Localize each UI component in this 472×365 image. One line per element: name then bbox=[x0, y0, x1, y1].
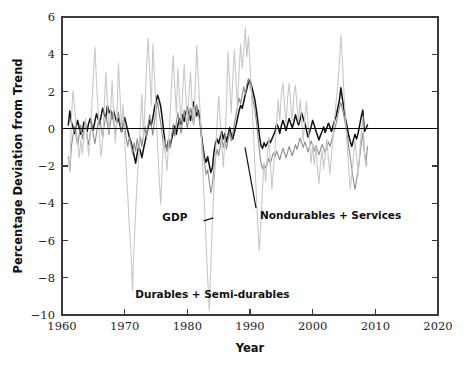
x-tick-label: 1980 bbox=[173, 319, 202, 333]
y-tick-label: 0 bbox=[48, 122, 55, 136]
y-axis-title: Percentage Deviation from Trend bbox=[11, 58, 25, 273]
series-lines bbox=[68, 27, 367, 310]
chart-figure: −10−8−6−4−20246 196019701980199020002010… bbox=[0, 0, 472, 365]
series-line-2 bbox=[68, 27, 367, 310]
series-annotations: GDPNondurables + ServicesDurables + Semi… bbox=[135, 147, 401, 300]
annotation-label-1: Nondurables + Services bbox=[260, 209, 401, 221]
y-tick-label: −4 bbox=[38, 196, 55, 210]
x-tick-label: 2000 bbox=[298, 319, 327, 333]
x-axis-tick-labels: 1960197019801990200020102020 bbox=[47, 319, 452, 333]
y-axis-tick-labels: −10−8−6−4−20246 bbox=[31, 10, 55, 322]
y-tick-label: −6 bbox=[38, 234, 55, 248]
annotation-label-2: Durables + Semi-durables bbox=[135, 288, 289, 300]
x-tick-label: 1970 bbox=[110, 319, 139, 333]
annotation-label-0: GDP bbox=[162, 211, 187, 223]
deviation-from-trend-chart: −10−8−6−4−20246 196019701980199020002010… bbox=[0, 0, 472, 365]
y-tick-label: 4 bbox=[48, 47, 55, 61]
x-axis-title: Year bbox=[235, 341, 265, 355]
x-tick-label: 1990 bbox=[235, 319, 264, 333]
y-tick-label: −2 bbox=[38, 159, 55, 173]
y-tick-label: 2 bbox=[48, 85, 55, 99]
x-tick-label: 2010 bbox=[361, 319, 390, 333]
y-tick-label: 6 bbox=[48, 10, 55, 24]
x-tick-label: 2020 bbox=[423, 319, 452, 333]
y-tick-label: −8 bbox=[38, 271, 55, 285]
x-tick-label: 1960 bbox=[47, 319, 76, 333]
